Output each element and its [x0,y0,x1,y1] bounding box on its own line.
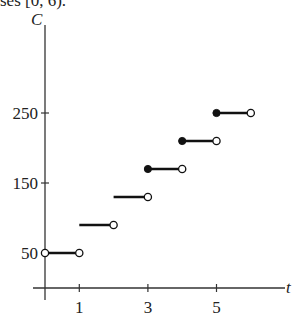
step-chart: Ct13550150250 [0,0,298,322]
y-tick-label: 150 [13,174,39,193]
open-endpoint [76,249,83,256]
closed-endpoint [144,165,151,172]
open-endpoint [110,221,117,228]
open-endpoint [179,165,186,172]
y-tick-label: 50 [21,244,38,263]
closed-endpoint [179,137,186,144]
open-endpoint [41,249,48,256]
open-endpoint [144,193,151,200]
x-tick-label: 3 [144,298,153,317]
y-axis-label: C [31,10,43,29]
open-endpoint [213,137,220,144]
x-tick-label: 1 [75,298,84,317]
closed-endpoint [213,109,220,116]
x-tick-label: 5 [212,298,221,317]
y-tick-label: 250 [13,104,39,123]
x-axis-label: t [286,278,292,297]
open-endpoint [247,109,254,116]
